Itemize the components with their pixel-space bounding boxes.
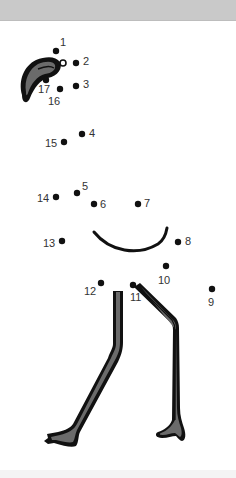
dot-label-2: 2 [83,56,89,67]
dot-label-9: 9 [208,297,214,308]
dot-label-7: 7 [144,198,150,209]
dot-label-8: 8 [185,236,191,247]
dot-16[interactable] [57,86,63,92]
bottom-edge [0,470,236,478]
dot-4[interactable] [79,131,85,137]
dot-15[interactable] [61,139,67,145]
body-curve [94,228,167,251]
dot-10[interactable] [163,263,169,269]
dot-label-1: 1 [60,37,66,48]
dot-label-10: 10 [158,275,170,286]
dot-label-11: 11 [130,292,141,303]
dot-label-17: 17 [38,84,50,95]
dot-label-16: 16 [48,96,60,107]
dot-label-13: 13 [43,238,55,249]
dot-2[interactable] [73,60,79,66]
right-leg [134,283,185,441]
dot-label-12: 12 [84,286,96,297]
dot-label-6: 6 [100,199,106,210]
flamingo-drawing [0,0,236,478]
dot-13[interactable] [59,238,65,244]
dot-7[interactable] [135,201,141,207]
dot-8[interactable] [175,239,181,245]
dot-label-3: 3 [83,79,89,90]
dot-12[interactable] [98,280,104,286]
dot-9[interactable] [209,286,215,292]
dot-label-15: 15 [45,138,57,149]
dots-layer [43,48,215,292]
left-leg [44,291,123,447]
dot-1[interactable] [53,48,59,54]
eye-icon [60,60,66,66]
dot-11[interactable] [130,282,136,288]
dot-3[interactable] [73,83,79,89]
dot-label-4: 4 [89,128,95,139]
dot-label-14: 14 [37,193,49,204]
dot-label-5: 5 [82,181,88,192]
dot-5[interactable] [74,190,80,196]
dot-6[interactable] [91,201,97,207]
dot-14[interactable] [53,194,59,200]
